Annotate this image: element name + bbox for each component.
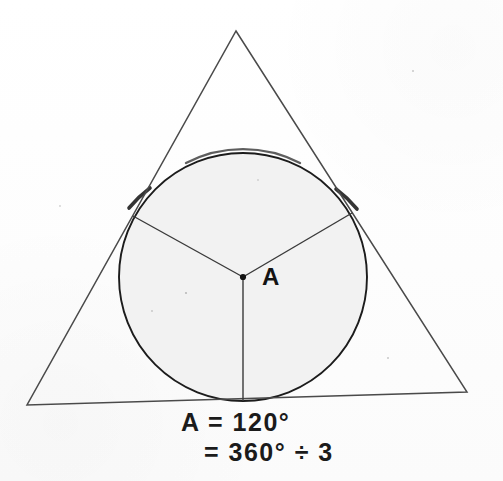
figure-page: A A = 120° = 360° ÷ 3 (0, 0, 503, 481)
caption-line-1: A = 120° (181, 408, 290, 437)
caption-line-2: = 360° ÷ 3 (204, 438, 334, 467)
scan-speckle (151, 310, 153, 312)
scan-speckle (185, 292, 187, 294)
scan-speckle (387, 357, 389, 359)
angle-label-a: A (262, 263, 280, 291)
scan-speckle (59, 205, 61, 207)
scan-speckle (257, 179, 259, 181)
circle-center-point (240, 274, 246, 280)
scan-speckle (412, 70, 414, 72)
